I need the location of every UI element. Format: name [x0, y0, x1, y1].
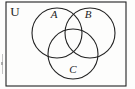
set-label-a: A	[51, 9, 58, 20]
venn-diagram-canvas	[0, 0, 135, 89]
venn-diagram-figure: U A B C	[0, 0, 135, 89]
set-label-c: C	[69, 64, 76, 75]
universal-set-label: U	[10, 5, 19, 18]
set-label-b: B	[85, 9, 92, 20]
universal-set-rectangle	[6, 2, 126, 86]
scan-artifact-mark	[1, 62, 3, 65]
